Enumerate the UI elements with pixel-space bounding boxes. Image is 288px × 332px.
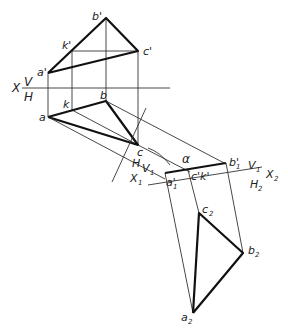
- label-axis1-v1-sub: 1: [150, 169, 154, 177]
- label-h2-sub: 2: [258, 185, 263, 193]
- label-a2-sub: 2: [188, 318, 193, 326]
- label-k-prime: k': [62, 39, 71, 52]
- label-x1: X: [129, 172, 138, 185]
- label-b2-sub: 2: [255, 251, 260, 259]
- label-axis-v: V: [24, 75, 33, 89]
- label-a2: a: [181, 311, 188, 324]
- label-axis-x: X: [11, 81, 21, 95]
- label-b2: b: [248, 244, 255, 257]
- projector-a-aux2: [165, 173, 193, 313]
- projection-diagram: b' k' c' a' X V H k b a c α b' 1 V 1 X 2…: [0, 0, 288, 332]
- label-c1-k1: c'k': [191, 170, 209, 183]
- label-b: b: [100, 89, 107, 102]
- label-k: k: [63, 98, 70, 111]
- label-c2-sub: 2: [209, 210, 214, 218]
- triangle-true-shape: [193, 213, 243, 313]
- label-a: a: [39, 111, 46, 124]
- label-axis-h: H: [24, 90, 33, 104]
- alpha-arc: [148, 148, 170, 165]
- label-axis1-h: H: [132, 157, 140, 170]
- label-b-prime: b': [92, 10, 102, 23]
- label-x1-sub: 1: [138, 179, 142, 187]
- label-c2: c: [202, 203, 208, 216]
- label-x2-sub: 2: [274, 175, 279, 183]
- axis-x1: [112, 108, 146, 182]
- label-a-prime: a': [37, 66, 47, 79]
- label-a1-sub: 1: [173, 183, 177, 191]
- label-v1-x2-sub: 1: [256, 166, 260, 174]
- label-alpha: α: [182, 152, 190, 166]
- projector-b-aux1: [106, 101, 226, 164]
- label-x2: X: [265, 168, 274, 181]
- triangle-top-view: [48, 101, 138, 145]
- label-b1-sub: 1: [236, 163, 240, 171]
- label-c-prime: c': [143, 45, 152, 58]
